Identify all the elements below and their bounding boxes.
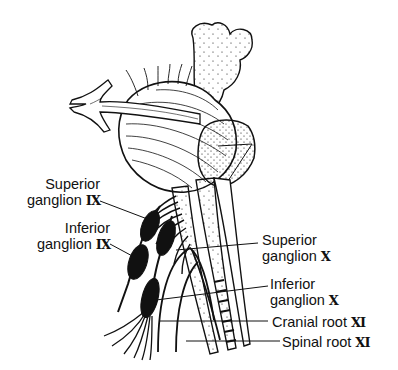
label-inferior-ganglion-ix: Inferior ganglion IX [24, 220, 110, 253]
label-inferior-ganglion-x: Inferior ganglion X [270, 276, 338, 309]
label-spinal-root-xi: Spinal root XI [282, 334, 370, 351]
roman-numeral: IX [96, 237, 110, 252]
roman-numeral: XI [355, 335, 369, 350]
olive-block [198, 120, 255, 186]
inferior-ganglion-ix-shape [124, 242, 152, 282]
roman-numeral: X [329, 293, 338, 308]
label-superior-ganglion-ix: Superior ganglion IX [26, 176, 100, 209]
roman-numeral: XI [351, 315, 365, 330]
label-cranial-root-xi: Cranial root XI [272, 314, 365, 331]
roman-numeral: X [321, 249, 330, 264]
inferior-ganglion-x-shape [137, 277, 162, 320]
label-superior-ganglion-x: Superior ganglion X [262, 232, 330, 265]
medulla-columns [172, 178, 250, 354]
roman-numeral: IX [86, 193, 100, 208]
